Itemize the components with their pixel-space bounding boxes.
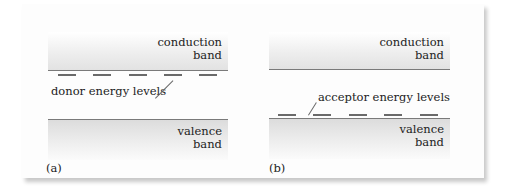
conduction-band-label-a: conduction band	[157, 36, 222, 62]
donor-level-dash	[129, 74, 147, 76]
panel-label-b: (b)	[269, 161, 285, 175]
valence-band-label-b: valence band	[400, 123, 445, 149]
conduction-band-a: conduction band	[48, 32, 228, 71]
donor-level-dash	[164, 74, 182, 76]
donor-level-dash	[93, 74, 111, 76]
acceptor-level-dash	[278, 114, 296, 116]
acceptor-level-dash	[420, 114, 438, 116]
donor-level-dash	[199, 74, 217, 76]
figure-card: conduction band donor energy levels vale…	[22, 4, 484, 178]
panel-b: conduction band acceptor energy levels v…	[262, 4, 484, 178]
acceptor-level-dash	[384, 114, 402, 116]
valence-band-label-a: valence band	[178, 125, 223, 151]
panel-label-a: (a)	[46, 161, 62, 175]
valence-label-line2: band	[400, 136, 445, 149]
conduction-label-line2: band	[379, 49, 444, 62]
donor-level-dash	[58, 74, 76, 76]
conduction-band-label-b: conduction band	[379, 36, 444, 62]
panel-a: conduction band donor energy levels vale…	[22, 4, 252, 178]
valence-band-a: valence band	[48, 119, 228, 160]
conduction-label-line2: band	[157, 49, 222, 62]
valence-label-line2: band	[178, 138, 223, 151]
acceptor-level-dash	[349, 114, 367, 116]
donor-energy-levels-label: donor energy levels	[51, 84, 166, 98]
valence-band-b: valence band	[269, 118, 450, 159]
acceptor-energy-levels-label: acceptor energy levels	[318, 90, 450, 104]
acceptor-level-dash	[313, 114, 331, 116]
conduction-band-b: conduction band	[269, 32, 450, 70]
